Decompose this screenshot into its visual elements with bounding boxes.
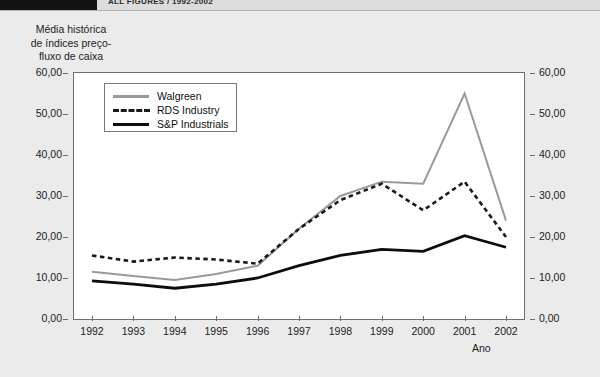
x-tick-mark	[340, 316, 341, 321]
x-tick-label: 1996	[246, 325, 269, 337]
legend-item-label: RDS Industry	[157, 104, 219, 116]
x-tick-label: 1998	[329, 325, 352, 337]
x-tick-mark	[133, 316, 134, 321]
x-axis-ticks: 1992199319941995199619971998199920002001…	[73, 321, 525, 343]
y-tick-label-left: 40,00	[36, 148, 62, 160]
legend-item-rds-industry: RDS Industry	[105, 103, 236, 116]
x-axis-title: Ano	[472, 342, 491, 354]
y-axis-title-line-1: Média histórica	[8, 23, 134, 37]
x-tick-mark	[299, 316, 300, 321]
series-line-rds-industry	[92, 182, 506, 264]
y-axis-title: Média histórica de índices preço- fluxo …	[8, 23, 134, 64]
y-tick-mark-left	[63, 278, 68, 279]
y-tick-label-left: 10,00	[36, 271, 62, 283]
legend-line-swatch-icon	[113, 91, 149, 101]
legend-item-label: S&P Industrials	[157, 118, 229, 130]
x-tick-mark	[92, 316, 93, 321]
legend-item-walgreen: Walgreen	[105, 89, 236, 102]
y-tick-mark-left	[63, 319, 68, 320]
y-tick-label-right: 20,00	[539, 230, 565, 242]
x-tick-mark	[175, 316, 176, 321]
y-tick-label-right: 50,00	[539, 107, 565, 119]
x-tick-label: 1993	[122, 325, 145, 337]
y-tick-mark-left	[63, 196, 68, 197]
x-tick-mark	[216, 316, 217, 321]
y-tick-mark-right	[530, 155, 535, 156]
x-tick-mark	[258, 316, 259, 321]
y-tick-mark-right	[530, 278, 535, 279]
y-tick-mark-right	[530, 73, 535, 74]
y-tick-mark-left	[63, 114, 68, 115]
x-tick-mark	[423, 316, 424, 321]
x-tick-mark	[465, 316, 466, 321]
y-tick-label-right: 10,00	[539, 271, 565, 283]
x-tick-label: 1999	[370, 325, 393, 337]
y-axis-left-ticks: 0,0010,0020,0030,0040,0050,0060,00	[22, 72, 68, 320]
y-tick-label-left: 20,00	[36, 230, 62, 242]
legend-item-sp-industrials: S&P Industrials	[105, 117, 236, 130]
x-tick-label: 2000	[412, 325, 435, 337]
x-tick-mark	[506, 316, 507, 321]
y-tick-label-left: 0,00	[42, 312, 62, 324]
y-tick-label-right: 40,00	[539, 148, 565, 160]
x-tick-mark	[382, 316, 383, 321]
y-tick-mark-left	[63, 155, 68, 156]
header-title: ALL FIGURES / 1992-2002	[108, 0, 213, 6]
y-axis-title-line-3: fluxo de caixa	[8, 50, 134, 64]
y-tick-label-right: 0,00	[539, 312, 559, 324]
y-tick-label-left: 60,00	[36, 66, 62, 78]
y-tick-mark-left	[63, 237, 68, 238]
document-header-strip: ALL FIGURES / 1992-2002	[0, 0, 600, 11]
x-tick-label: 1997	[287, 325, 310, 337]
y-tick-mark-right	[530, 237, 535, 238]
x-tick-label: 2001	[453, 325, 476, 337]
y-tick-label-left: 30,00	[36, 189, 62, 201]
legend-bold-line-swatch-icon	[113, 119, 149, 129]
x-tick-label: 1995	[205, 325, 228, 337]
y-tick-mark-right	[530, 114, 535, 115]
y-axis-title-line-2: de índices preço-	[8, 37, 134, 51]
legend-item-label: Walgreen	[157, 90, 202, 102]
y-axis-right-ticks: 0,0010,0020,0030,0040,0050,0060,00	[530, 72, 578, 320]
x-tick-label: 2002	[494, 325, 517, 337]
y-tick-label-left: 50,00	[36, 107, 62, 119]
header-black-block	[0, 0, 97, 10]
series-line-s-p-industrials	[92, 236, 506, 288]
x-tick-label: 1994	[163, 325, 186, 337]
y-tick-label-right: 60,00	[539, 66, 565, 78]
chart-legend: Walgreen RDS Industry S&P Industrials	[104, 83, 237, 132]
x-tick-label: 1992	[80, 325, 103, 337]
page-surface: Média histórica de índices preço- fluxo …	[0, 11, 600, 377]
y-tick-mark-right	[530, 319, 535, 320]
y-tick-mark-left	[63, 73, 68, 74]
legend-dashed-swatch-icon	[113, 105, 149, 115]
y-tick-mark-right	[530, 196, 535, 197]
y-tick-label-right: 30,00	[539, 189, 565, 201]
